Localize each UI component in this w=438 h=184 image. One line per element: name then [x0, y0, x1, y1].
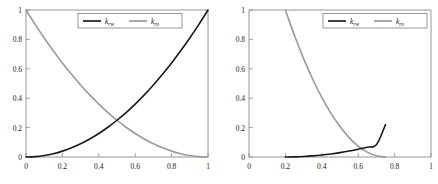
right-plot-svg: 0 0.2 0.4 0.6 0.8 1 0 0.2 0.4 0.6 0.8: [219, 0, 438, 184]
x-tick-label: 0: [247, 162, 251, 171]
left-x-tick-labels: 0 0.2 0.4 0.6 0.8 1: [24, 162, 210, 171]
legend-right: krw kro: [323, 14, 427, 29]
chart-panel-right: 0 0.2 0.4 0.6 0.8 1 0 0.2 0.4 0.6 0.8: [219, 0, 438, 184]
y-tick-label: 0.8: [13, 35, 23, 44]
right-x-ticks: [249, 153, 431, 157]
y-tick-label: 0: [241, 153, 245, 162]
figure-container: 0 0.2 0.4 0.6 0.8 1 0 0.2 0.4 0.6 0.8: [0, 0, 438, 184]
x-tick-label: 0.6: [354, 162, 364, 171]
left-plot-svg: 0 0.2 0.4 0.6 0.8 1 0 0.2 0.4 0.6 0.8: [0, 0, 219, 184]
y-tick-label: 0.2: [13, 124, 23, 133]
curve-kro-right: [285, 10, 385, 157]
y-tick-label: 0.2: [236, 124, 246, 133]
left-plot-frame: [26, 10, 208, 157]
left-axis-lines: [26, 10, 208, 157]
right-x-tick-labels: 0 0.2 0.4 0.6 0.8 1: [247, 162, 433, 171]
y-tick-label: 0.8: [236, 35, 246, 44]
x-tick-label: 0.8: [167, 162, 177, 171]
left-y-ticks: [26, 10, 30, 157]
curve-kro-left: [26, 10, 208, 157]
y-tick-label: 0.4: [236, 94, 246, 103]
x-tick-label: 0.2: [58, 162, 68, 171]
y-tick-label: 0.4: [13, 94, 23, 103]
right-axis-lines: [249, 10, 431, 157]
y-tick-label: 0.6: [13, 65, 23, 74]
x-tick-label: 0.2: [281, 162, 291, 171]
y-tick-label: 1: [241, 6, 245, 15]
curve-krw-right: [285, 125, 385, 157]
curve-krw-left: [26, 10, 208, 157]
x-tick-label: 1: [206, 162, 210, 171]
right-plot-frame: [249, 10, 431, 157]
chart-panel-left: 0 0.2 0.4 0.6 0.8 1 0 0.2 0.4 0.6 0.8: [0, 0, 219, 184]
y-tick-label: 0.6: [236, 65, 246, 74]
right-y-ticks: [249, 10, 253, 157]
x-tick-label: 0.4: [317, 162, 327, 171]
x-tick-label: 0.8: [390, 162, 400, 171]
x-tick-label: 0.4: [94, 162, 104, 171]
x-tick-label: 1: [429, 162, 433, 171]
y-tick-label: 0: [18, 153, 22, 162]
y-tick-label: 1: [18, 6, 22, 15]
x-tick-label: 0.6: [131, 162, 141, 171]
left-y-tick-labels: 0 0.2 0.4 0.6 0.8 1: [13, 6, 23, 162]
right-y-tick-labels: 0 0.2 0.4 0.6 0.8 1: [236, 6, 246, 162]
legend-left: krw kro: [78, 14, 182, 29]
x-tick-label: 0: [24, 162, 28, 171]
